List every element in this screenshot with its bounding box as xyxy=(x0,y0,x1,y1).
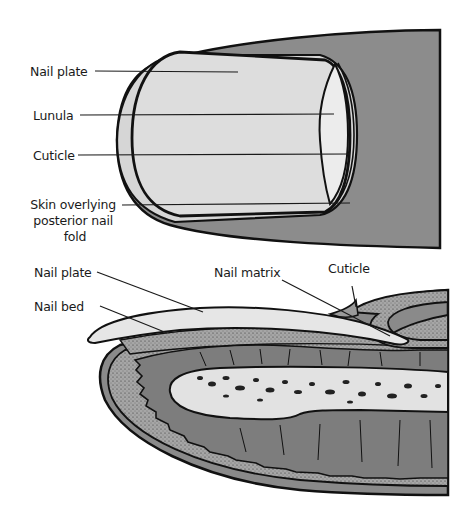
leader-section-nail-plate xyxy=(97,272,203,312)
label-skin-overlying-fold: Skin overlying posterior nail fold xyxy=(30,197,120,244)
label-nail-matrix: Nail matrix xyxy=(214,265,280,280)
top-view: Nail plate Lunula Cuticle Skin overlying… xyxy=(30,30,440,248)
label-nail-plate: Nail plate xyxy=(30,64,88,79)
label-cuticle: Cuticle xyxy=(33,148,75,163)
section-cuticle xyxy=(330,300,358,317)
label-nail-bed: Nail bed xyxy=(34,299,84,314)
cross-section: Nail plate Nail bed Nail matrix Cuticle xyxy=(34,261,448,495)
distal-phalanx-bone xyxy=(170,367,448,419)
label-section-cuticle: Cuticle xyxy=(328,261,370,276)
nail-plate xyxy=(132,52,350,216)
label-section-nail-plate: Nail plate xyxy=(34,265,92,280)
nail-anatomy-diagram: Nail plate Lunula Cuticle Skin overlying… xyxy=(0,0,465,522)
label-lunula: Lunula xyxy=(33,108,73,123)
